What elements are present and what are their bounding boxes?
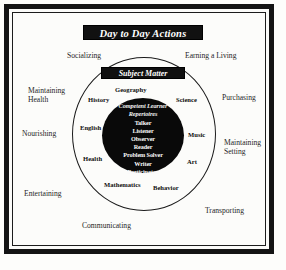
subject-label-health: Health (83, 155, 102, 163)
subject-label-music: Music (188, 131, 205, 139)
repertoire-item-problem-solver: Problem Solver (102, 151, 184, 159)
action-label-entertaining: Entertaining (24, 190, 62, 199)
repertoire-item-observer: Observer (102, 135, 184, 143)
repertoire-list: Talker Listener Observer Reader Problem … (102, 119, 184, 175)
subject-label-geography: Geography (115, 86, 147, 94)
subject-label-mathematics: Mathematics (104, 181, 141, 189)
figure-root: Day to Day Actions Subject Matter Compet… (0, 0, 286, 270)
subject-label-art: Art (187, 158, 197, 166)
action-label-maintaining-health-line1: Maintaining (28, 86, 65, 95)
repertoire-item-talker: Talker (102, 119, 184, 127)
inner-heading: Competent Learner Repertoires (102, 102, 184, 118)
title-banner-day-to-day-actions: Day to Day Actions (83, 25, 203, 40)
action-label-earning-a-living: Earning a Living (185, 52, 236, 61)
action-label-transporting: Transporting (205, 207, 244, 216)
action-label-communicating: Communicating (82, 222, 131, 231)
action-label-maintaining-setting: Maintaining Setting (224, 138, 261, 157)
subject-label-science: Science (176, 96, 197, 104)
action-label-maintaining-setting-line2: Setting (224, 147, 261, 156)
inner-circle-text-stack: Competent Learner Repertoires Talker Lis… (102, 102, 184, 176)
action-label-purchasing: Purchasing (222, 94, 256, 103)
inner-heading-line1: Competent Learner (119, 102, 168, 109)
action-label-maintaining-setting-line1: Maintaining (224, 138, 261, 147)
subject-label-history: History (88, 96, 109, 104)
action-label-maintaining-health-line2: Health (28, 95, 65, 104)
action-label-socializing: Socializing (67, 52, 101, 61)
diagram-canvas: Day to Day Actions Subject Matter Compet… (0, 0, 286, 270)
action-label-maintaining-health: Maintaining Health (28, 86, 65, 105)
inner-heading-line2: Repertoires (102, 110, 184, 118)
action-label-nourishing: Nourishing (22, 130, 56, 139)
subject-label-english: English (80, 124, 101, 132)
repertoire-item-writer: Writer (102, 160, 184, 168)
repertoire-item-listener: Listener (102, 127, 184, 135)
repertoire-item-participator: Participator (102, 168, 184, 176)
repertoire-item-reader: Reader (102, 143, 184, 151)
banner-subject-matter: Subject Matter (101, 67, 185, 79)
subject-label-behavior: Behavior (153, 184, 179, 192)
